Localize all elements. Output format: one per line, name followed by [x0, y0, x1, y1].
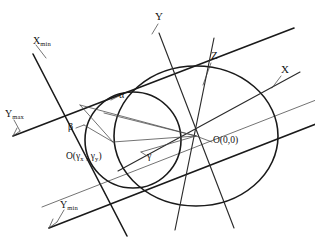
- label-axis-z: Z: [211, 50, 218, 61]
- axis-ray-y: [159, 33, 234, 228]
- axis-line-y-max: [13, 28, 294, 136]
- geometric-diagram-figure: Xmin Ymax Ymin Y Z X α β γ O(0,0) O(γx ,…: [0, 0, 315, 245]
- label-origin-local-close: ): [98, 151, 101, 161]
- label-axis-x: X: [281, 64, 289, 75]
- leader-axis-x: [272, 76, 281, 88]
- label-origin-global: O(0,0): [213, 136, 238, 146]
- label-x-min-sub: min: [40, 40, 51, 47]
- label-y-max: Ymax: [5, 109, 24, 120]
- axis-line-y-min: [49, 124, 315, 228]
- small-circle: [85, 92, 181, 188]
- label-y-min-sub: min: [67, 204, 78, 211]
- label-y-max-sub: max: [12, 113, 24, 120]
- label-x-min: Xmin: [33, 36, 51, 47]
- label-axis-y: Y: [155, 11, 163, 22]
- leader-beta: [76, 125, 84, 128]
- construction-line-origin-to-rim: [104, 113, 196, 136]
- label-angle-beta: β: [68, 122, 73, 132]
- leader-axis-y: [152, 24, 158, 34]
- leader-y-max: [14, 120, 20, 131]
- construction-line-beta-lower: [84, 125, 113, 142]
- label-y-min: Ymin: [60, 200, 78, 211]
- label-origin-local-open: O(: [66, 151, 76, 161]
- label-angle-alpha: α: [119, 90, 124, 100]
- leader-origin-global: [196, 136, 212, 142]
- label-origin-local-comma: ,: [84, 151, 91, 161]
- axis-line-x-min: [33, 54, 127, 236]
- label-origin-local: O(γx , γy): [66, 152, 102, 162]
- leader-y-min: [57, 210, 64, 222]
- construction-line-center-to-center: [113, 136, 196, 142]
- label-angle-gamma: γ: [147, 151, 151, 161]
